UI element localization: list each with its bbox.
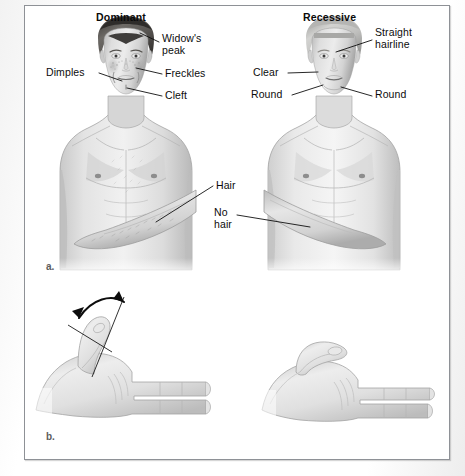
label-round-right: Round	[375, 89, 406, 101]
label-dimples: Dimples	[46, 67, 85, 79]
label-widows-peak-line1: Widow's	[162, 33, 201, 45]
label-clear: Clear	[253, 67, 279, 79]
label-freckles: Freckles	[165, 68, 205, 80]
label-straight-hairline-line2: hairline	[375, 39, 410, 51]
hitchhikers-thumb-illustration	[24, 291, 211, 420]
label-hair: Hair	[216, 180, 236, 192]
label-no-hair-line2: hair	[214, 219, 232, 231]
straight-thumb-illustration	[250, 342, 435, 422]
label-widows-peak-line2: peak	[162, 45, 185, 57]
panel-b-letter: b.	[46, 431, 55, 442]
dominant-panel-title: Dominant	[96, 11, 146, 23]
recessive-panel-title: Recessive	[303, 11, 356, 23]
label-cleft: Cleft	[165, 90, 187, 102]
label-round-left: Round	[251, 89, 282, 101]
label-straight-hairline-line1: Straight	[375, 27, 412, 39]
panel-a-letter: a.	[46, 261, 54, 272]
label-no-hair-line1: No	[214, 207, 228, 219]
recessive-figure-illustration	[264, 16, 406, 276]
figure-root: Dominant Recessive Widow's peak Dimples …	[0, 0, 465, 476]
